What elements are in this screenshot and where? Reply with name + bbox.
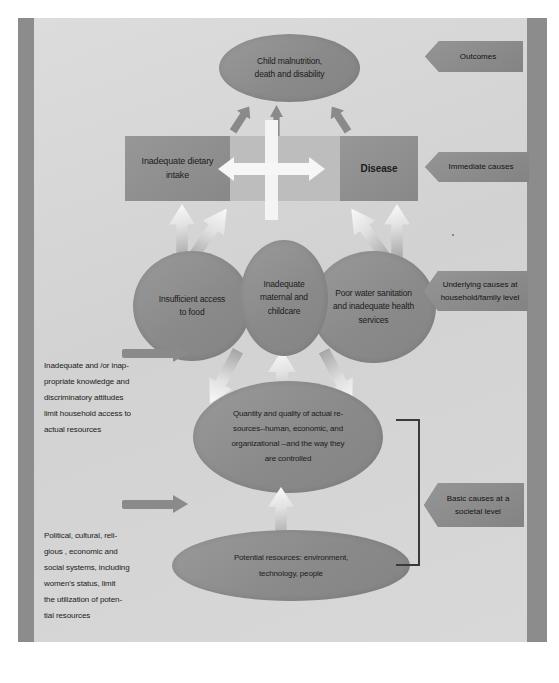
diagram-page: Child malnutrition, death and disability… [0, 0, 559, 683]
box-disease: Disease [340, 136, 418, 201]
note-knowledge-attitudes: Inadequate and /or inap- propriate knowl… [44, 358, 179, 438]
arrow-tail [122, 349, 174, 358]
oval-actual-resources: Quantity and quality of actual re- sourc… [193, 381, 383, 493]
oval-actual-resources-label: Quantity and quality of actual re- sourc… [207, 407, 369, 466]
callout-outcomes: Outcomes [425, 41, 523, 72]
basic-causes-bracket [396, 419, 420, 566]
arrow-head [173, 495, 188, 513]
scan-speck [452, 234, 454, 236]
oval-potential-resources: Potential resources: environment, techno… [172, 530, 410, 601]
callout-basic-causes: Basic causes at a societal level [424, 483, 524, 527]
left-margin-bar [18, 18, 34, 642]
arrow-tail [122, 500, 174, 509]
callout-immediate-causes: Immediate causes [425, 152, 529, 182]
right-margin-bar [527, 18, 547, 642]
arrow-political-note-icon [122, 495, 188, 514]
cross-arrowhead-right-icon [309, 157, 325, 181]
note-political-systems: Political, cultural, reli- gious , econo… [44, 528, 179, 624]
cross-arrowhead-left-icon [218, 157, 234, 181]
callout-underlying-causes: Underlying causes at household/family le… [424, 271, 528, 311]
box-inadequate-dietary-intake: Inadequate dietary intake [125, 136, 230, 201]
circle-poor-water-sanitation-health-services: Poor water sanitation and inadequate hea… [311, 251, 436, 363]
outcome-oval: Child malnutrition, death and disability [219, 34, 360, 102]
cross-horizontal-bar-icon [232, 163, 311, 175]
circle-inadequate-maternal-and-childcare: Inadequate maternal and childcare [240, 240, 328, 356]
